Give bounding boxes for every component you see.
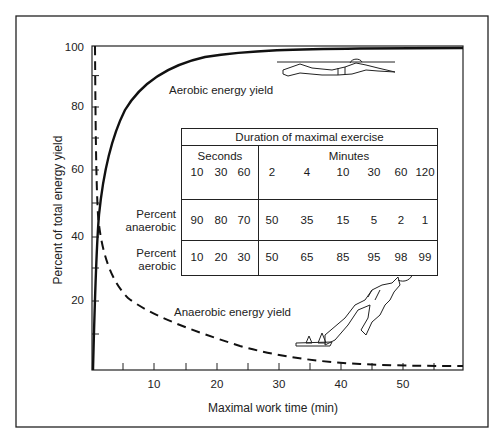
row-label-aerobic: Percent aerobic xyxy=(118,247,176,273)
x-tick-label-10: 10 xyxy=(139,378,169,390)
duration-cell: 2 xyxy=(260,166,284,178)
table-cell: 2 xyxy=(389,214,413,226)
row-label-anaerobic: Percent anaerobic xyxy=(118,208,176,234)
table-title: Duration of maximal exercise xyxy=(182,129,437,146)
duration-cell: 10 xyxy=(331,166,355,178)
y-tick-label-80: 80 xyxy=(56,100,84,112)
table-cell: 98 xyxy=(389,251,413,263)
x-tick-label-50: 50 xyxy=(388,378,418,390)
aerobic-curve-label: Aerobic energy yield xyxy=(169,84,273,96)
table-cell: 80 xyxy=(209,214,233,226)
duration-cell: 60 xyxy=(389,166,413,178)
group-seconds-label: Seconds xyxy=(182,150,258,162)
table-cell: 85 xyxy=(331,251,355,263)
group-minutes-label: Minutes xyxy=(259,150,439,162)
table-cell: 1 xyxy=(413,214,437,226)
y-axis-label: Percent of total energy yield xyxy=(51,136,65,285)
y-tick-label-20: 20 xyxy=(56,294,84,306)
table-cell: 95 xyxy=(362,251,386,263)
sprinter-illustration xyxy=(296,265,413,346)
table-cell: 5 xyxy=(362,214,386,226)
table-cell: 35 xyxy=(295,214,319,226)
table-cell: 50 xyxy=(260,214,284,226)
table-cell: 15 xyxy=(331,214,355,226)
duration-cell: 30 xyxy=(209,166,233,178)
x-axis-label: Maximal work time (min) xyxy=(208,401,338,415)
table-divider xyxy=(182,240,437,241)
duration-cell: 10 xyxy=(185,166,209,178)
table-cell: 20 xyxy=(209,251,233,263)
table-divider xyxy=(258,145,259,276)
y-tick-label-100: 100 xyxy=(56,41,84,53)
table-cell: 90 xyxy=(185,214,209,226)
anaerobic-curve-label: Anaerobic energy yield xyxy=(174,306,291,318)
duration-cell: 120 xyxy=(413,166,437,178)
duration-cell: 30 xyxy=(362,166,386,178)
table-cell: 30 xyxy=(232,251,256,263)
x-tick-label-30: 30 xyxy=(264,378,294,390)
table-divider xyxy=(182,199,437,200)
table-cell: 65 xyxy=(295,251,319,263)
duration-cell: 4 xyxy=(295,166,319,178)
figure: 100 80 60 40 20 10 20 30 40 50 Percent o… xyxy=(0,0,504,442)
x-tick-label-40: 40 xyxy=(326,378,356,390)
swimmer-illustration xyxy=(277,59,395,76)
inset-table: Duration of maximal exercise Seconds Min… xyxy=(181,128,438,276)
x-tick-label-20: 20 xyxy=(202,378,232,390)
x-ticks xyxy=(123,363,434,370)
table-cell: 50 xyxy=(260,251,284,263)
table-cell: 70 xyxy=(232,214,256,226)
table-cell: 10 xyxy=(185,251,209,263)
table-cell: 99 xyxy=(413,251,437,263)
duration-cell: 60 xyxy=(232,166,256,178)
